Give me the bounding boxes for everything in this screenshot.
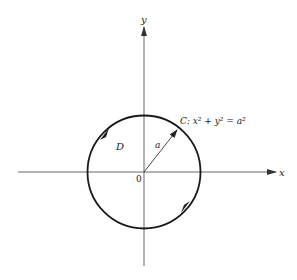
x-axis-label: x [279,167,285,178]
radius-label: a [155,140,160,150]
curve-label-prefix: C: [180,116,193,126]
region-label: D [115,141,124,152]
radius-line [144,130,177,172]
curve-label-equation: x² + y² = a² [193,116,246,126]
circle-diagram: y x 0 D a C: x² + y² = a² [0,0,297,280]
diagram-canvas: y x 0 D a C: x² + y² = a² [0,0,297,280]
origin-label: 0 [136,174,142,184]
y-axis-label: y [140,14,147,25]
curve-label: C: x² + y² = a² [180,116,246,126]
